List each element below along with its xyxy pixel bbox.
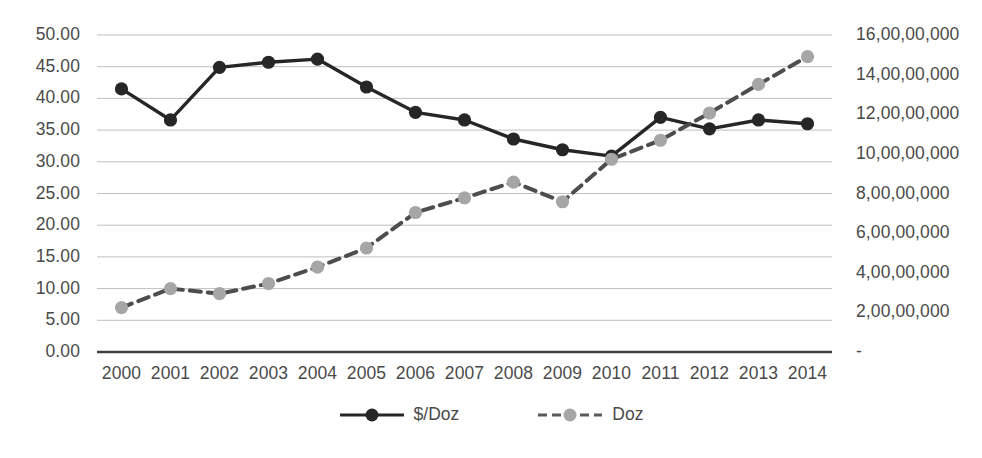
data-point-marker [409,106,422,119]
legend-label-dollar-per-doz: $/Doz [414,404,460,425]
legend-marker-dashed-icon [537,407,603,423]
y-axis-left-tick: 45.00 [0,56,80,77]
data-point-marker [164,282,177,295]
data-point-marker [556,195,569,208]
data-point-marker [262,56,275,69]
data-point-marker [801,117,814,130]
chart-legend: $/Doz Doz [0,404,982,425]
y-axis-left-tick: 5.00 [0,309,80,330]
legend-marker-solid-icon [339,407,405,423]
y-axis-left-tick: 30.00 [0,151,80,172]
y-axis-left-tick: 25.00 [0,183,80,204]
y-axis-left-tick: 0.00 [0,341,80,362]
data-point-marker [801,50,814,63]
y-axis-right-tick: - [856,341,982,362]
y-axis-left-tick: 15.00 [0,246,80,267]
chart-container: 50.0045.0040.0035.0030.0025.0020.0015.00… [0,0,982,458]
data-point-marker [752,78,765,91]
y-axis-right-tick: 10,00,00,000 [856,143,982,164]
y-axis-right-tick: 12,00,00,000 [856,103,982,124]
y-axis-right-tick: 4,00,00,000 [856,262,982,283]
legend-label-doz: Doz [612,404,643,425]
legend-item-dollar-per-doz[interactable]: $/Doz [339,404,460,425]
data-point-marker [262,277,275,290]
data-point-marker [311,260,324,273]
data-point-marker [654,134,667,147]
data-point-marker [458,113,471,126]
data-point-marker [115,82,128,95]
data-point-marker [409,206,422,219]
legend-item-doz[interactable]: Doz [537,404,643,425]
data-point-marker [213,61,226,74]
data-point-marker [360,241,373,254]
data-point-marker [703,122,716,135]
data-point-marker [213,287,226,300]
data-point-marker [164,113,177,126]
y-axis-left-tick: 40.00 [0,87,80,108]
data-point-marker [507,132,520,145]
data-point-marker [654,111,667,124]
x-axis-tick: 2014 [778,363,838,384]
y-axis-left-tick: 35.00 [0,119,80,140]
data-point-marker [752,113,765,126]
series-line-2 [122,57,808,308]
data-point-marker [605,153,618,166]
y-axis-left-tick: 20.00 [0,214,80,235]
data-point-marker [703,106,716,119]
y-axis-right-tick: 14,00,00,000 [856,64,982,85]
y-axis-left-tick: 10.00 [0,278,80,299]
data-point-marker [311,52,324,65]
data-point-marker [507,175,520,188]
y-axis-right-tick: 16,00,00,000 [856,24,982,45]
y-axis-right-tick: 8,00,00,000 [856,183,982,204]
data-point-marker [115,301,128,314]
data-point-marker [360,80,373,93]
y-axis-right-tick: 6,00,00,000 [856,222,982,243]
data-point-marker [556,143,569,156]
y-axis-left-tick: 50.00 [0,24,80,45]
series-line-1 [122,59,808,156]
chart-plot-area [0,0,982,458]
data-point-marker [458,191,471,204]
y-axis-right-tick: 2,00,00,000 [856,301,982,322]
